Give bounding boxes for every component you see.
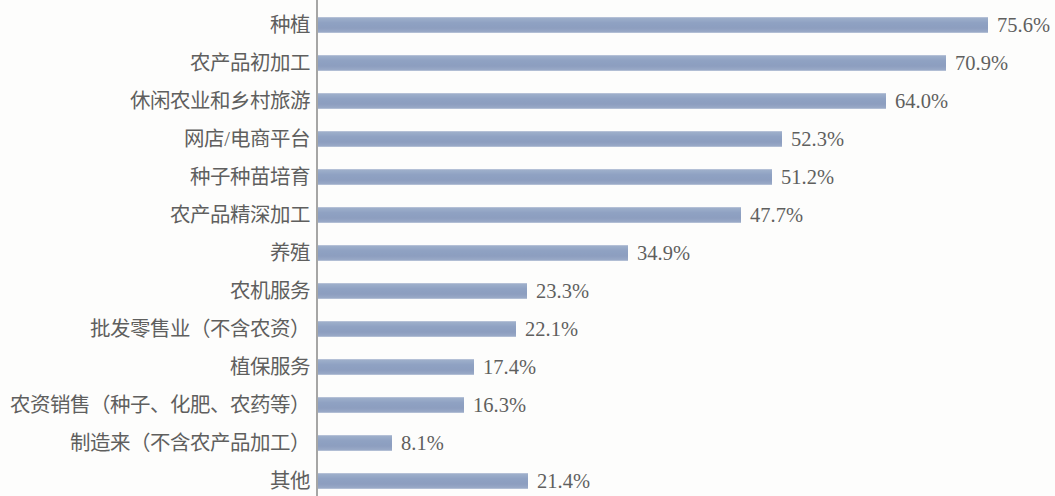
category-label: 网店/电商平台 — [184, 128, 310, 149]
bar-row: 农资销售（种子、化肥、农药等）16.3% — [0, 386, 1055, 424]
bar — [318, 169, 772, 184]
bar — [318, 207, 741, 222]
bar-value-label: 52.3% — [791, 128, 844, 149]
bar-row: 种子种苗培育51.2% — [0, 158, 1055, 196]
bar-value-label: 23.3% — [536, 280, 589, 301]
bar-track — [318, 93, 886, 108]
bar — [318, 397, 464, 412]
bar-row: 农机服务23.3% — [0, 272, 1055, 310]
bar-track — [318, 473, 528, 488]
bar-value-label: 8.1% — [401, 432, 444, 453]
bar-value-label: 47.7% — [750, 204, 803, 225]
bar — [318, 321, 516, 336]
bar-row: 制造来（不含农产品加工）8.1% — [0, 424, 1055, 462]
bar — [318, 359, 474, 374]
bar-track — [318, 169, 772, 184]
category-label: 植保服务 — [230, 356, 310, 377]
category-label: 农产品初加工 — [190, 52, 310, 73]
bar-track — [318, 435, 392, 450]
bar-track — [318, 321, 516, 336]
category-label: 养殖 — [270, 242, 310, 263]
bar — [318, 435, 392, 450]
bar-row: 养殖34.9% — [0, 234, 1055, 272]
category-label: 其他 — [270, 470, 310, 491]
bar-row: 批发零售业（不含农资）22.1% — [0, 310, 1055, 348]
bar — [318, 93, 886, 108]
bar-track — [318, 359, 474, 374]
bar-track — [318, 283, 527, 298]
bar-track — [318, 55, 946, 70]
bar-row: 农产品初加工70.9% — [0, 44, 1055, 82]
category-label: 种子种苗培育 — [190, 166, 310, 187]
category-label: 农机服务 — [230, 280, 310, 301]
bar — [318, 283, 527, 298]
bar-track — [318, 397, 464, 412]
category-label: 制造来（不含农产品加工） — [70, 432, 310, 453]
bar-value-label: 17.4% — [483, 356, 536, 377]
horizontal-bar-chart: 种植75.6%农产品初加工70.9%休闲农业和乡村旅游64.0%网店/电商平台5… — [0, 0, 1055, 496]
bar-row: 其他21.4% — [0, 462, 1055, 496]
bar-row: 植保服务17.4% — [0, 348, 1055, 386]
bar-value-label: 16.3% — [473, 394, 526, 415]
bar-track — [318, 17, 988, 32]
bar-value-label: 70.9% — [955, 52, 1008, 73]
category-label: 休闲农业和乡村旅游 — [130, 90, 310, 111]
bar-track — [318, 207, 741, 222]
bar-value-label: 22.1% — [525, 318, 578, 339]
category-label: 农资销售（种子、化肥、农药等） — [10, 394, 310, 415]
bar-value-label: 34.9% — [637, 242, 690, 263]
bar — [318, 17, 988, 32]
bar-row: 种植75.6% — [0, 6, 1055, 44]
bar — [318, 55, 946, 70]
bar-row: 农产品精深加工47.7% — [0, 196, 1055, 234]
category-label: 农产品精深加工 — [170, 204, 310, 225]
bar — [318, 245, 628, 260]
bar-value-label: 64.0% — [895, 90, 948, 111]
bar-row: 休闲农业和乡村旅游64.0% — [0, 82, 1055, 120]
bar-rows-container: 种植75.6%农产品初加工70.9%休闲农业和乡村旅游64.0%网店/电商平台5… — [0, 0, 1055, 496]
bar-track — [318, 131, 782, 146]
category-label: 批发零售业（不含农资） — [90, 318, 310, 339]
bar — [318, 131, 782, 146]
bar-value-label: 75.6% — [997, 14, 1050, 35]
category-label: 种植 — [270, 14, 310, 35]
bar-value-label: 21.4% — [537, 470, 590, 491]
bar-row: 网店/电商平台52.3% — [0, 120, 1055, 158]
bar-value-label: 51.2% — [781, 166, 834, 187]
bar-track — [318, 245, 628, 260]
bar — [318, 473, 528, 488]
